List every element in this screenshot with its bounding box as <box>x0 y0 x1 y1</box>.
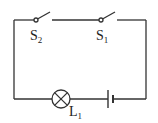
circuit-diagram: S2 S1 L1 <box>0 0 158 123</box>
switch-s2-icon <box>34 12 50 22</box>
switch-s1-icon <box>99 12 115 22</box>
lamp-icon <box>52 90 70 108</box>
label-s2: S2 <box>30 28 42 45</box>
battery-icon <box>108 90 113 108</box>
label-s1: S1 <box>96 28 108 45</box>
label-l1: L1 <box>69 104 82 121</box>
